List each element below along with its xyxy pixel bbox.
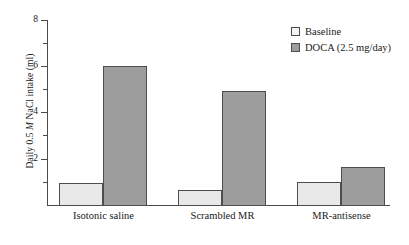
legend-swatch-doca-icon [291, 43, 300, 52]
legend-swatch-baseline-icon [291, 27, 300, 36]
bar-chart: Daily 0.5 M NaCl intake (ml) 8 6 4 2 Iso… [0, 0, 409, 245]
y-tick-label-6-wrap: 6 [8, 61, 38, 71]
legend: Baseline DOCA (2.5 mg/day) [291, 24, 391, 56]
y-tick-minor-7 [43, 43, 48, 44]
bar-scrambled-mr-baseline [178, 190, 222, 206]
y-tick-label-2-wrap: 2 [8, 154, 38, 164]
y-tick-label-4: 4 [12, 107, 38, 117]
x-group-label-mr-antisense: MR-antisense [274, 210, 409, 221]
y-tick-major-4 [41, 112, 48, 113]
y-tick-label-6: 6 [12, 61, 38, 71]
y-tick-minor-3 [43, 135, 48, 136]
y-tick-label-4-wrap: 4 [8, 107, 38, 117]
y-tick-major-8 [41, 20, 48, 21]
legend-item-baseline: Baseline [291, 24, 391, 38]
legend-label-doca: DOCA (2.5 mg/day) [305, 42, 391, 53]
y-tick-label-8: 8 [12, 15, 38, 25]
y-tick-minor-5 [43, 89, 48, 90]
y-tick-major-6 [41, 66, 48, 67]
legend-label-baseline: Baseline [305, 26, 341, 37]
bar-isotonic-saline-baseline [59, 183, 103, 206]
y-tick-minor-1 [43, 182, 48, 183]
y-axis-line [47, 20, 48, 206]
x-group-label-scrambled-mr: Scrambled MR [155, 210, 290, 221]
y-tick-label-8-wrap: 8 [8, 15, 38, 25]
y-tick-major-2 [41, 159, 48, 160]
bar-isotonic-saline-doca [103, 66, 147, 206]
y-axis-title-italic: M [25, 122, 35, 130]
bar-mr-antisense-baseline [297, 182, 341, 206]
x-group-label-isotonic-saline: Isotonic saline [36, 210, 171, 221]
y-tick-label-2: 2 [12, 154, 38, 164]
bar-scrambled-mr-doca [222, 91, 266, 206]
bar-mr-antisense-doca [341, 167, 385, 206]
legend-item-doca: DOCA (2.5 mg/day) [291, 40, 391, 54]
